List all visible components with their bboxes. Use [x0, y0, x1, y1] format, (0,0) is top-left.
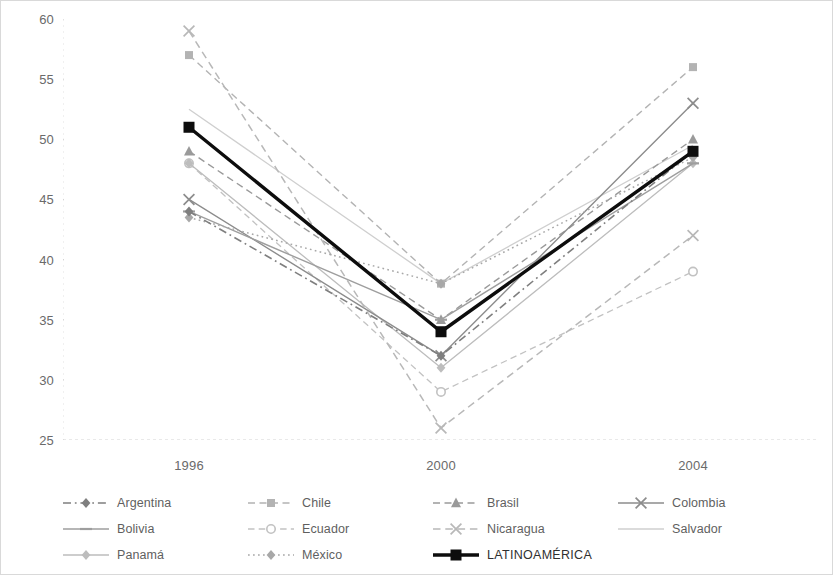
legend-label: Bolivia: [117, 522, 155, 536]
x-axis-tick-label: 1996: [174, 458, 204, 473]
series-m-xico: [185, 152, 698, 288]
data-point-marker: [689, 63, 697, 71]
plot-area: 2530354045505560 199620002004: [63, 19, 819, 440]
data-point-marker: [184, 26, 195, 37]
legend-swatch: [431, 547, 481, 563]
data-point-marker: [185, 51, 193, 59]
chart-figure: 2530354045505560 199620002004 ArgentinaC…: [0, 0, 833, 575]
legend-item[interactable]: Nicaragua: [431, 519, 545, 539]
legend-item[interactable]: LATINOAMÉRICA: [431, 545, 592, 565]
legend-swatch: [246, 521, 296, 537]
series-chile: [185, 51, 697, 288]
legend-label: Ecuador: [302, 522, 349, 536]
data-point-marker: [82, 498, 91, 508]
legend-swatch: [431, 495, 481, 511]
y-axis-tick-label: 40: [39, 252, 54, 267]
data-point-marker: [689, 267, 697, 275]
legend-label: Chile: [302, 496, 331, 510]
y-axis-tick-label: 30: [39, 372, 54, 387]
legend-swatch: [616, 495, 666, 511]
data-point-marker: [451, 550, 462, 561]
series-line: [189, 151, 693, 355]
data-point-marker: [688, 98, 699, 109]
data-point-marker: [184, 194, 195, 205]
data-point-marker: [688, 146, 699, 157]
legend-label: LATINOAMÉRICA: [487, 548, 592, 562]
x-axis-tick-label: 2004: [678, 458, 708, 473]
series-salvador: [189, 109, 693, 283]
data-point-marker: [688, 230, 699, 241]
legend-item[interactable]: México: [246, 545, 342, 565]
data-point-marker: [436, 326, 447, 337]
legend-label: Argentina: [117, 496, 171, 510]
y-axis-tick-label: 25: [39, 433, 54, 448]
y-axis-tick-label: 35: [39, 312, 54, 327]
x-axis-tick-label: 2000: [426, 458, 456, 473]
data-point-marker: [688, 134, 698, 144]
legend-item[interactable]: Argentina: [61, 493, 171, 513]
series-line: [189, 127, 693, 331]
legend-swatch: [61, 495, 111, 511]
legend-item[interactable]: Colombia: [616, 493, 726, 513]
series-line: [189, 109, 693, 283]
y-axis-tick-label: 55: [39, 72, 54, 87]
data-point-marker: [267, 499, 275, 507]
legend-swatch: [246, 547, 296, 563]
y-axis-tick-label: 45: [39, 192, 54, 207]
legend-label: Brasil: [487, 496, 519, 510]
legend-swatch: [61, 521, 111, 537]
series-latinoam-rica: [184, 122, 699, 337]
series-line: [189, 55, 693, 284]
data-point-marker: [437, 388, 445, 396]
chart-plot-svg: [63, 19, 819, 440]
legend-label: Salvador: [672, 522, 722, 536]
legend-label: México: [302, 548, 342, 562]
data-point-marker: [184, 146, 194, 156]
legend-item[interactable]: Ecuador: [246, 519, 349, 539]
legend-swatch: [431, 521, 481, 537]
data-point-marker: [82, 550, 91, 560]
data-point-marker: [184, 122, 195, 133]
legend-item[interactable]: Bolivia: [61, 519, 155, 539]
series-line: [189, 157, 693, 283]
data-point-marker: [437, 363, 446, 373]
data-point-marker: [436, 423, 447, 434]
y-axis-tick-label: 60: [39, 12, 54, 27]
legend-label: Colombia: [672, 496, 726, 510]
legend-swatch: [616, 521, 666, 537]
chart-legend: ArgentinaChileBrasilColombiaBoliviaEcuad…: [31, 493, 811, 565]
data-point-marker: [267, 525, 275, 533]
y-axis-tick-label: 50: [39, 132, 54, 147]
legend-swatch: [246, 495, 296, 511]
legend-item[interactable]: Brasil: [431, 493, 519, 513]
data-point-marker: [185, 206, 194, 216]
legend-item[interactable]: Chile: [246, 493, 331, 513]
legend-label: Nicaragua: [487, 522, 545, 536]
legend-swatch: [61, 547, 111, 563]
data-point-marker: [267, 550, 276, 560]
legend-item[interactable]: Panamá: [61, 545, 164, 565]
legend-label: Panamá: [117, 548, 164, 562]
legend-item[interactable]: Salvador: [616, 519, 722, 539]
